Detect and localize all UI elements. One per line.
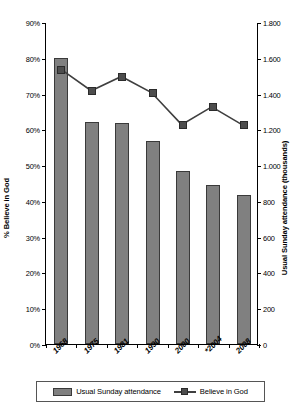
- y-tick-right: [257, 166, 261, 167]
- x-tick: [259, 344, 260, 348]
- y-tick-label-right: 1.400: [263, 90, 281, 99]
- line-marker: [57, 66, 65, 74]
- y-tick-right: [257, 309, 261, 310]
- y-tick-label-right: 200: [263, 305, 275, 314]
- line-marker-swatch-icon: [174, 388, 196, 396]
- y-tick-label-left: 90%: [26, 19, 40, 28]
- y-tick-label-left: 0%: [30, 341, 40, 350]
- y-tick-label-right: 1.000: [263, 162, 281, 171]
- x-tick: [168, 344, 169, 348]
- y-tick-label-left: 40%: [26, 197, 40, 206]
- y-axis-title-right: Usual Sunday attendance (thousands): [280, 108, 289, 308]
- y-tick-label-right: 800: [263, 197, 275, 206]
- y-tick-label-right: 600: [263, 233, 275, 242]
- y-tick-label-left: 80%: [26, 54, 40, 63]
- legend-item-usual-sunday-attendance: Usual Sunday attendance: [53, 387, 161, 396]
- line-marker: [209, 103, 217, 111]
- line-marker: [118, 73, 126, 81]
- chart-root: % Believe in God Usual Sunday attendance…: [0, 0, 300, 416]
- bar-swatch-icon: [53, 388, 72, 396]
- y-tick-right: [257, 59, 261, 60]
- plot-area: 0%10%20%30%40%50%60%70%80%90% 0200400600…: [45, 23, 258, 345]
- y-tick-label-right: 400: [263, 269, 275, 278]
- line-series-believe-in-god: [46, 23, 257, 344]
- y-tick-label-left: 30%: [26, 233, 40, 242]
- x-tick: [107, 344, 108, 348]
- legend-label-believe-in-god: Believe in God: [200, 387, 248, 396]
- x-tick: [229, 344, 230, 348]
- y-tick-label-left: 50%: [26, 162, 40, 171]
- y-axis-title-left: % Believe in God: [2, 138, 11, 278]
- y-tick-right: [257, 273, 261, 274]
- x-tick: [76, 344, 77, 348]
- line-marker: [88, 87, 96, 95]
- y-tick-label-right: 1.200: [263, 126, 281, 135]
- y-tick-right: [257, 238, 261, 239]
- y-tick-label-left: 20%: [26, 269, 40, 278]
- line-marker: [179, 121, 187, 129]
- y-tick-label-left: 70%: [26, 90, 40, 99]
- legend-item-believe-in-god: Believe in God: [174, 387, 248, 396]
- y-tick-right: [257, 23, 261, 24]
- chart-legend: Usual Sunday attendance Believe in God: [36, 381, 265, 402]
- x-tick: [198, 344, 199, 348]
- y-tick-right: [257, 202, 261, 203]
- y-tick-right: [257, 95, 261, 96]
- line-marker: [149, 89, 157, 97]
- line-marker: [240, 121, 248, 129]
- legend-label-usual-sunday-attendance: Usual Sunday attendance: [76, 387, 161, 396]
- y-tick-label-right: 1.800: [263, 19, 281, 28]
- y-tick-label-left: 10%: [26, 305, 40, 314]
- x-tick: [137, 344, 138, 348]
- y-tick-label-right: 1.600: [263, 54, 281, 63]
- y-tick-label-left: 60%: [26, 126, 40, 135]
- x-tick: [46, 344, 47, 348]
- y-tick-label-right: 0: [263, 341, 267, 350]
- y-tick-right: [257, 130, 261, 131]
